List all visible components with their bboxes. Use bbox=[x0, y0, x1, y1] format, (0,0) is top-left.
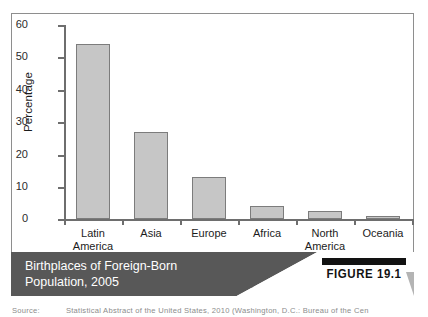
x-label-line1: Africa bbox=[238, 227, 296, 240]
x-tick-6 bbox=[412, 219, 414, 225]
y-tick-label-0: 0 bbox=[0, 213, 28, 224]
bar-asia bbox=[134, 132, 168, 219]
y-tick-60 bbox=[58, 25, 65, 27]
bar-latin-america bbox=[76, 44, 110, 219]
y-tick-40 bbox=[58, 90, 65, 92]
x-label-latin-america: Latin America bbox=[64, 227, 122, 252]
y-tick-10 bbox=[58, 187, 65, 189]
y-tick-label-30: 30 bbox=[0, 116, 28, 127]
x-label-line1: Europe bbox=[180, 227, 238, 240]
figure-badge-bar bbox=[322, 258, 406, 265]
source-text: Statistical Abstract of the United State… bbox=[66, 306, 369, 315]
x-label-asia: Asia bbox=[122, 227, 180, 240]
caption-line-1: Birthplaces of Foreign-Born bbox=[25, 258, 275, 274]
source-note: Source:Statistical Abstract of the Unite… bbox=[12, 306, 422, 315]
figure-caption-text: Birthplaces of Foreign-Born Population, … bbox=[25, 258, 275, 290]
figure-frame: Percentage 60 50 40 30 20 10 0 bbox=[11, 13, 414, 288]
y-tick-50 bbox=[58, 57, 65, 59]
bar-north-america bbox=[308, 211, 342, 219]
bar-europe bbox=[192, 177, 226, 219]
x-label-line1: North bbox=[296, 227, 354, 240]
y-tick-20 bbox=[58, 155, 65, 157]
x-tick-1 bbox=[122, 219, 124, 225]
x-label-oceania: Oceania bbox=[354, 227, 412, 240]
figure-badge-label: FIGURE 19.1 bbox=[325, 267, 402, 281]
y-tick-label-10: 10 bbox=[0, 181, 28, 192]
x-label-line1: Latin bbox=[64, 227, 122, 240]
bar-africa bbox=[250, 206, 284, 219]
y-tick-label-40: 40 bbox=[0, 84, 28, 95]
figure-number-badge: FIGURE 19.1 bbox=[322, 258, 406, 281]
x-label-line1: Asia bbox=[122, 227, 180, 240]
y-tick-30 bbox=[58, 122, 65, 124]
y-tick-label-60: 60 bbox=[0, 19, 28, 30]
x-label-europe: Europe bbox=[180, 227, 238, 240]
caption-line-2: Population, 2005 bbox=[25, 274, 275, 290]
x-label-africa: Africa bbox=[238, 227, 296, 240]
bar-chart-plot-area: Percentage 60 50 40 30 20 10 0 bbox=[12, 14, 413, 287]
x-tick-2 bbox=[180, 219, 182, 225]
bar-oceania bbox=[366, 216, 400, 219]
x-label-line1: Oceania bbox=[354, 227, 412, 240]
x-tick-3 bbox=[238, 219, 240, 225]
y-tick-label-20: 20 bbox=[0, 149, 28, 160]
y-tick-label-50: 50 bbox=[0, 51, 28, 62]
x-tick-4 bbox=[296, 219, 298, 225]
x-label-line2: America bbox=[296, 240, 354, 253]
x-tick-0 bbox=[64, 219, 66, 225]
x-tick-5 bbox=[354, 219, 356, 225]
source-label: Source: bbox=[12, 306, 40, 315]
x-label-north-america: North America bbox=[296, 227, 354, 252]
x-label-line2: America bbox=[64, 240, 122, 253]
